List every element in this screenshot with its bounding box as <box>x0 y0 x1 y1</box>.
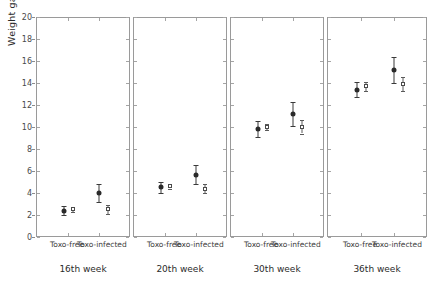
error-bar-cap <box>392 83 397 84</box>
panel-bottom-tick <box>293 233 294 236</box>
error-bar-cap <box>401 77 405 78</box>
panel-side-tick <box>126 61 129 62</box>
error-bar-cap <box>62 206 67 207</box>
error-bar-cap <box>193 184 198 185</box>
panel-top-tick <box>361 18 362 21</box>
panel-top-tick <box>262 18 263 21</box>
panel-side-tick <box>37 105 40 106</box>
y-axis-tick <box>32 83 35 84</box>
error-bar-cap <box>159 193 164 194</box>
y-axis-tick-label: 16 <box>22 57 32 66</box>
panel-side-tick <box>126 171 129 172</box>
panel-side-tick <box>423 171 426 172</box>
data-point-open-square <box>203 187 207 191</box>
panel-side-tick <box>423 105 426 106</box>
panel-side-tick <box>423 193 426 194</box>
panel-side-tick <box>134 215 137 216</box>
data-point-filled-circle <box>62 208 67 213</box>
panel-side-tick <box>423 237 426 238</box>
panel-side-tick <box>126 105 129 106</box>
panel-side-tick <box>320 193 323 194</box>
panel-side-tick <box>423 39 426 40</box>
panel-side-tick <box>231 17 234 18</box>
panel-bottom-tick <box>196 233 197 236</box>
panel-side-tick <box>126 127 129 128</box>
panel-label: 30th week <box>253 264 300 274</box>
error-bar-cap <box>203 193 207 194</box>
panel-side-tick <box>328 171 331 172</box>
panel-side-tick <box>320 39 323 40</box>
panel-side-tick <box>134 83 137 84</box>
y-axis-tick-label: 10 <box>22 123 32 132</box>
panel-side-tick <box>328 193 331 194</box>
chart-panel-1 <box>36 17 130 237</box>
panel-side-tick <box>223 237 226 238</box>
chart-panel-2 <box>133 17 227 237</box>
y-axis-tick-label: 12 <box>22 101 32 110</box>
panel-side-tick <box>231 171 234 172</box>
panel-side-tick <box>37 83 40 84</box>
panel-side-tick <box>328 83 331 84</box>
panel-side-tick <box>223 215 226 216</box>
panel-side-tick <box>231 127 234 128</box>
panel-side-tick <box>223 83 226 84</box>
panel-top-tick <box>99 18 100 21</box>
panel-bottom-tick <box>165 233 166 236</box>
y-axis-tick <box>32 17 35 18</box>
panel-side-tick <box>328 215 331 216</box>
panel-side-tick <box>223 193 226 194</box>
panel-side-tick <box>134 61 137 62</box>
panel-side-tick <box>37 61 40 62</box>
group-label-toxo-infected: Toxo-infected <box>271 240 321 249</box>
error-bar-cap <box>355 97 360 98</box>
panel-side-tick <box>328 149 331 150</box>
data-point-filled-circle <box>392 67 397 72</box>
data-point-filled-circle <box>290 111 295 116</box>
panel-top-tick <box>293 18 294 21</box>
error-bar-cap <box>364 82 368 83</box>
panel-side-tick <box>126 215 129 216</box>
y-axis-tick <box>32 127 35 128</box>
panel-side-tick <box>134 17 137 18</box>
panel-side-tick <box>320 127 323 128</box>
panel-side-tick <box>231 237 234 238</box>
panel-side-tick <box>328 105 331 106</box>
error-bar-cap <box>256 121 261 122</box>
panel-side-tick <box>223 105 226 106</box>
panel-side-tick <box>126 237 129 238</box>
data-point-open-square <box>168 184 172 188</box>
panel-bottom-tick <box>68 233 69 236</box>
panel-side-tick <box>231 105 234 106</box>
panel-side-tick <box>37 193 40 194</box>
panel-side-tick <box>37 215 40 216</box>
y-axis-tick <box>32 39 35 40</box>
panel-top-tick <box>68 18 69 21</box>
panel-side-tick <box>134 105 137 106</box>
error-bar-cap <box>265 130 269 131</box>
panel-side-tick <box>126 149 129 150</box>
y-axis-tick <box>32 105 35 106</box>
panel-side-tick <box>134 237 137 238</box>
panel-side-tick <box>126 83 129 84</box>
panel-side-tick <box>328 17 331 18</box>
panel-side-tick <box>320 149 323 150</box>
panel-side-tick <box>320 237 323 238</box>
panel-side-tick <box>134 171 137 172</box>
panel-side-tick <box>231 149 234 150</box>
chart-panel-4 <box>327 17 427 237</box>
panel-side-tick <box>134 193 137 194</box>
group-label-toxo-infected: Toxo-infected <box>372 240 422 249</box>
panel-side-tick <box>223 17 226 18</box>
panel-side-tick <box>231 215 234 216</box>
error-bar-cap <box>106 214 110 215</box>
data-point-open-square <box>364 84 368 88</box>
error-bar-cap <box>71 212 75 213</box>
panel-side-tick <box>134 39 137 40</box>
y-axis-tick <box>32 61 35 62</box>
data-point-filled-circle <box>355 87 360 92</box>
panel-side-tick <box>423 127 426 128</box>
panel-side-tick <box>231 61 234 62</box>
data-point-open-square <box>300 125 304 129</box>
panel-side-tick <box>320 83 323 84</box>
y-axis-tick-label: 14 <box>22 79 32 88</box>
